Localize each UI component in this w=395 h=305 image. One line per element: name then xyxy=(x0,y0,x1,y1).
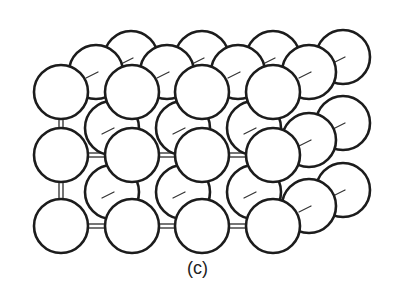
sphere-front xyxy=(246,199,300,253)
figure-caption: (c) xyxy=(0,258,395,279)
sphere-front xyxy=(105,65,159,119)
sphere-front xyxy=(175,199,229,253)
sphere-front xyxy=(34,128,88,182)
sphere-front xyxy=(105,199,159,253)
sphere-front xyxy=(34,65,88,119)
sphere-front xyxy=(175,128,229,182)
sphere-front xyxy=(246,128,300,182)
sphere-front xyxy=(105,128,159,182)
sphere-front xyxy=(246,65,300,119)
sphere-front xyxy=(34,199,88,253)
sphere-front xyxy=(175,65,229,119)
